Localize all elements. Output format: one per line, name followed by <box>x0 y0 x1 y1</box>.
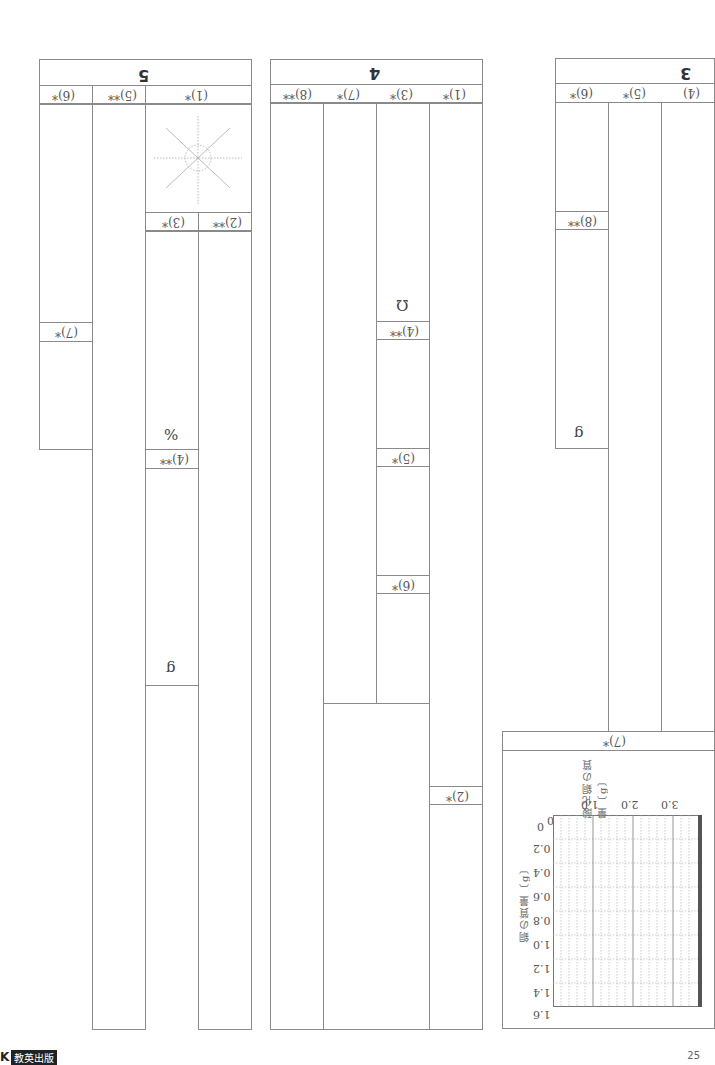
section-3-number: 3 <box>680 64 691 83</box>
s4-q3-unit: Ω <box>396 296 408 314</box>
s4-q1-answer-box[interactable] <box>429 103 483 787</box>
divider <box>39 341 93 342</box>
s5-q6-answer-box[interactable] <box>39 104 93 450</box>
s5-q5-answer-box[interactable] <box>92 104 146 1030</box>
s4-q7-lower-answer-box[interactable] <box>323 703 430 1030</box>
x-tick: 1.2 <box>533 962 551 975</box>
y-tick: 1.0 <box>581 798 599 811</box>
page-number: 25 <box>687 1050 700 1061</box>
x-tick: 1.4 <box>533 986 551 999</box>
s5-q4-unit: g <box>166 660 176 678</box>
s4-q6-label: (6)* <box>392 578 415 592</box>
s5-q3-answer-box[interactable] <box>145 231 199 450</box>
s4-q4-answer-box[interactable] <box>376 339 430 449</box>
s4-q8-label: (8)** <box>283 87 312 101</box>
s5-q2-label: (2)** <box>213 215 242 229</box>
s3-q6-label: (6)* <box>570 86 593 100</box>
s5-q5-label: (5)** <box>108 88 137 102</box>
s4-q8-answer-box[interactable] <box>270 103 324 1030</box>
s4-q5-label: (5)* <box>392 451 415 465</box>
s5-q3-label: (3)* <box>162 215 185 229</box>
x-tick: 0.2 <box>533 842 551 855</box>
logo-mark: K <box>0 1050 9 1064</box>
x-tick: 0.6 <box>533 890 551 903</box>
publisher-name: 教英出版 <box>11 1050 57 1065</box>
s5-q4-answer-box[interactable] <box>145 468 199 686</box>
x-tick: 1.0 <box>533 938 551 951</box>
s3-q7-label: (7)* <box>603 734 626 748</box>
s4-q2-answer-box[interactable] <box>429 804 483 1030</box>
divider <box>39 322 93 323</box>
s4-q3-answer-box[interactable] <box>376 103 430 322</box>
s4-q7-label: (7)* <box>337 87 360 101</box>
x-tick: 0.4 <box>533 866 551 879</box>
s3-q5-answer-box[interactable] <box>608 102 662 732</box>
s3-q5-label: (5)* <box>623 86 646 100</box>
s3-q4-label: (4) <box>683 86 700 100</box>
s3-q6-answer-box[interactable] <box>555 102 609 212</box>
s4-q1-label: (1)* <box>443 87 466 101</box>
s3-q8-unit: g <box>574 425 584 443</box>
s3-q4-answer-box[interactable] <box>661 102 715 732</box>
s5-q2-answer-box[interactable] <box>198 231 252 1030</box>
s5-q6-label: (6)* <box>52 88 75 102</box>
s5-q7-label: (7)* <box>55 325 78 339</box>
s4-q2-label: (2)* <box>446 789 469 803</box>
publisher-logo: K 教英出版 <box>0 1050 57 1064</box>
s4-q7-answer-box[interactable] <box>323 103 377 704</box>
s3-q8-label: (8)** <box>568 214 597 228</box>
s4-q4-label: (4)** <box>390 324 419 338</box>
s5-q4-label: (4)** <box>160 452 189 466</box>
x-tick: 1.6 <box>533 1008 551 1021</box>
compass-star-diagram <box>150 112 246 208</box>
s3-q8-answer-box[interactable] <box>555 229 609 449</box>
section-5-number: 5 <box>138 66 149 85</box>
y-tick: 3.0 <box>661 798 679 811</box>
y-tick: 2.0 <box>621 798 639 811</box>
graph-grid[interactable] <box>553 815 702 1007</box>
section-4-number: 4 <box>369 64 380 83</box>
s4-q5-answer-box[interactable] <box>376 466 430 576</box>
s4-q6-answer-box[interactable] <box>376 593 430 704</box>
x-tick: 0 <box>537 820 544 833</box>
s5-q1-label: (1)* <box>185 88 208 102</box>
graph-xlabel: 銅の質量〔g〕 <box>517 862 532 942</box>
s4-q3-label: (3)* <box>390 87 413 101</box>
x-tick: 0.8 <box>533 914 551 927</box>
s5-q3-unit: % <box>164 425 178 443</box>
